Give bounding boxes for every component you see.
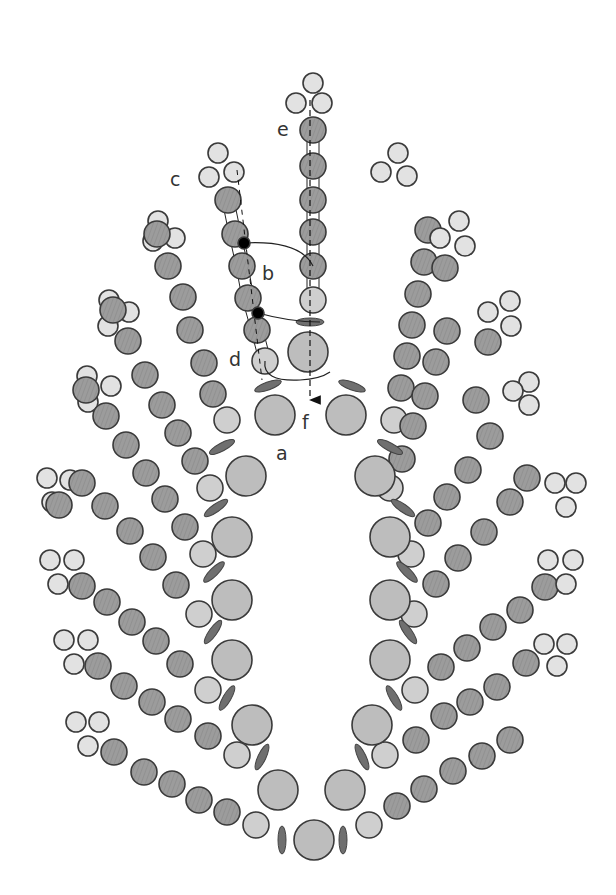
label-f: f xyxy=(302,411,310,433)
dark-circle xyxy=(182,448,208,474)
dark-circle xyxy=(133,460,159,486)
dark-circle xyxy=(186,787,212,813)
label-d: d xyxy=(229,348,241,370)
dark-circle xyxy=(143,628,169,654)
tip-circle xyxy=(557,634,577,654)
dark-circle xyxy=(46,492,72,518)
pad-ellipse xyxy=(384,684,405,712)
tip-circle xyxy=(371,162,391,182)
dark-circle xyxy=(454,635,480,661)
dark-circle xyxy=(384,793,410,819)
tip-circle xyxy=(54,630,74,650)
dark-circle xyxy=(457,689,483,715)
stalk-e-tip-circle xyxy=(303,73,323,93)
dark-circle xyxy=(411,776,437,802)
dark-circle xyxy=(139,689,165,715)
dark-circle xyxy=(113,432,139,458)
dark-circle xyxy=(484,674,510,700)
tip-circle xyxy=(37,468,57,488)
pad-ellipse xyxy=(337,377,366,394)
dark-circle xyxy=(131,759,157,785)
dark-circle xyxy=(155,253,181,279)
tip-circle xyxy=(545,473,565,493)
tip-circle xyxy=(66,712,86,732)
large-circle xyxy=(212,640,252,680)
dark-circle xyxy=(434,484,460,510)
tip-circle xyxy=(78,630,98,650)
dark-circle xyxy=(463,387,489,413)
dark-circle xyxy=(94,589,120,615)
tip-circle xyxy=(547,656,567,676)
pad-ellipse xyxy=(389,497,417,520)
stalk-e-tip-circle xyxy=(312,93,332,113)
dark-circle xyxy=(92,493,118,519)
tip-circle xyxy=(89,712,109,732)
tip-circle xyxy=(48,574,68,594)
large-circle xyxy=(370,580,410,620)
dark-circle xyxy=(423,349,449,375)
dark-circle xyxy=(214,799,240,825)
tip-circle xyxy=(455,236,475,256)
dark-circle xyxy=(100,297,126,323)
large-circle xyxy=(288,332,328,372)
large-circle xyxy=(212,580,252,620)
dark-circle xyxy=(432,255,458,281)
pad-ellipse xyxy=(252,743,271,772)
dark-circle xyxy=(477,423,503,449)
dark-circle xyxy=(434,318,460,344)
large-circle xyxy=(352,705,392,745)
stalk-e-dark-circle xyxy=(300,187,326,213)
dark-circle xyxy=(93,403,119,429)
pad-ellipse xyxy=(208,437,236,457)
dark-circle xyxy=(191,350,217,376)
dark-circle xyxy=(69,573,95,599)
light-circle xyxy=(356,812,382,838)
stalk-c-tip-circle xyxy=(224,162,244,182)
stalk-c-tip-circle xyxy=(199,167,219,187)
tip-circle xyxy=(500,291,520,311)
large-circle xyxy=(370,517,410,557)
dark-circle xyxy=(394,343,420,369)
tip-circle xyxy=(397,166,417,186)
dark-circle xyxy=(152,486,178,512)
stalk-c-tip-circle xyxy=(208,143,228,163)
dark-circle xyxy=(440,758,466,784)
dark-circle xyxy=(163,572,189,598)
tip-circle xyxy=(388,143,408,163)
stalk-e-dark-circle xyxy=(300,153,326,179)
tip-circle xyxy=(501,316,521,336)
label-c: c xyxy=(170,168,180,190)
large-circle xyxy=(232,705,272,745)
dark-circle xyxy=(507,597,533,623)
light-circle xyxy=(195,677,221,703)
pad-ellipse xyxy=(278,826,286,854)
dark-circle xyxy=(177,317,203,343)
dark-circle xyxy=(423,571,449,597)
light-circle xyxy=(372,742,398,768)
large-circle xyxy=(370,640,410,680)
label-a: a xyxy=(276,442,288,464)
tip-circle xyxy=(430,228,450,248)
dark-circle xyxy=(144,221,170,247)
tip-circle xyxy=(534,634,554,654)
light-circle xyxy=(186,601,212,627)
stalk-c-dark-circle xyxy=(215,187,241,213)
dark-circle xyxy=(497,489,523,515)
large-circle xyxy=(226,456,266,496)
dark-circle xyxy=(111,673,137,699)
tip-circle xyxy=(449,211,469,231)
dark-circle xyxy=(415,510,441,536)
dark-circle xyxy=(195,723,221,749)
tip-circle xyxy=(538,550,558,570)
dark-circle xyxy=(117,518,143,544)
tip-circle xyxy=(101,376,121,396)
pad-ellipse xyxy=(253,377,282,394)
label-e: e xyxy=(277,118,289,140)
large-circle xyxy=(294,820,334,860)
tip-circle xyxy=(478,302,498,322)
light-circle xyxy=(243,812,269,838)
dark-circle xyxy=(513,650,539,676)
stalk-e-light-circle xyxy=(300,287,326,313)
dark-circle xyxy=(101,739,127,765)
junction-dot xyxy=(238,237,250,249)
